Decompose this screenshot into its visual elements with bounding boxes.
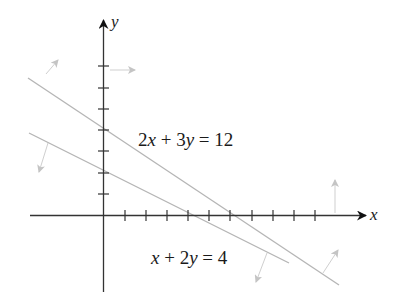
coordinate-plane: x y 2x + 3y = 12 x + 2y = 4 bbox=[0, 0, 412, 304]
y-axis-label: y bbox=[109, 12, 119, 31]
arrow-line1-upper-left-icon bbox=[46, 60, 58, 74]
arrow-line1-lower-right-icon bbox=[323, 250, 338, 273]
equation-label-x-2y-4: x + 2y = 4 bbox=[150, 247, 228, 268]
equation-label-2x-3y-12: 2x + 3y = 12 bbox=[138, 129, 233, 150]
arrow-line2-lower-right-icon bbox=[256, 253, 267, 282]
line-x-2y-4 bbox=[29, 133, 289, 263]
arrow-line2-lower-left-icon bbox=[39, 143, 48, 172]
x-axis-label: x bbox=[369, 205, 378, 224]
